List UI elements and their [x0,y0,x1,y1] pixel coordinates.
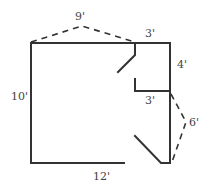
right-dashed-line [171,94,186,162]
top-dashed-line [31,26,135,42]
label-left: 10' [11,90,28,103]
label-bottom: 12' [93,170,110,183]
floor-plan-diagram: 9' 3' 10' 4' 3' 6' 12' [0,0,210,185]
inner-ledge [135,79,170,91]
inner-door-lower [135,136,170,163]
label-right-upper: 4' [177,58,187,71]
label-inner-ledge: 3' [145,94,155,107]
label-top-right: 3' [145,27,155,40]
inner-door-upper [118,43,135,72]
label-right-dashed: 6' [189,116,199,129]
label-top-dashed: 9' [75,10,85,23]
